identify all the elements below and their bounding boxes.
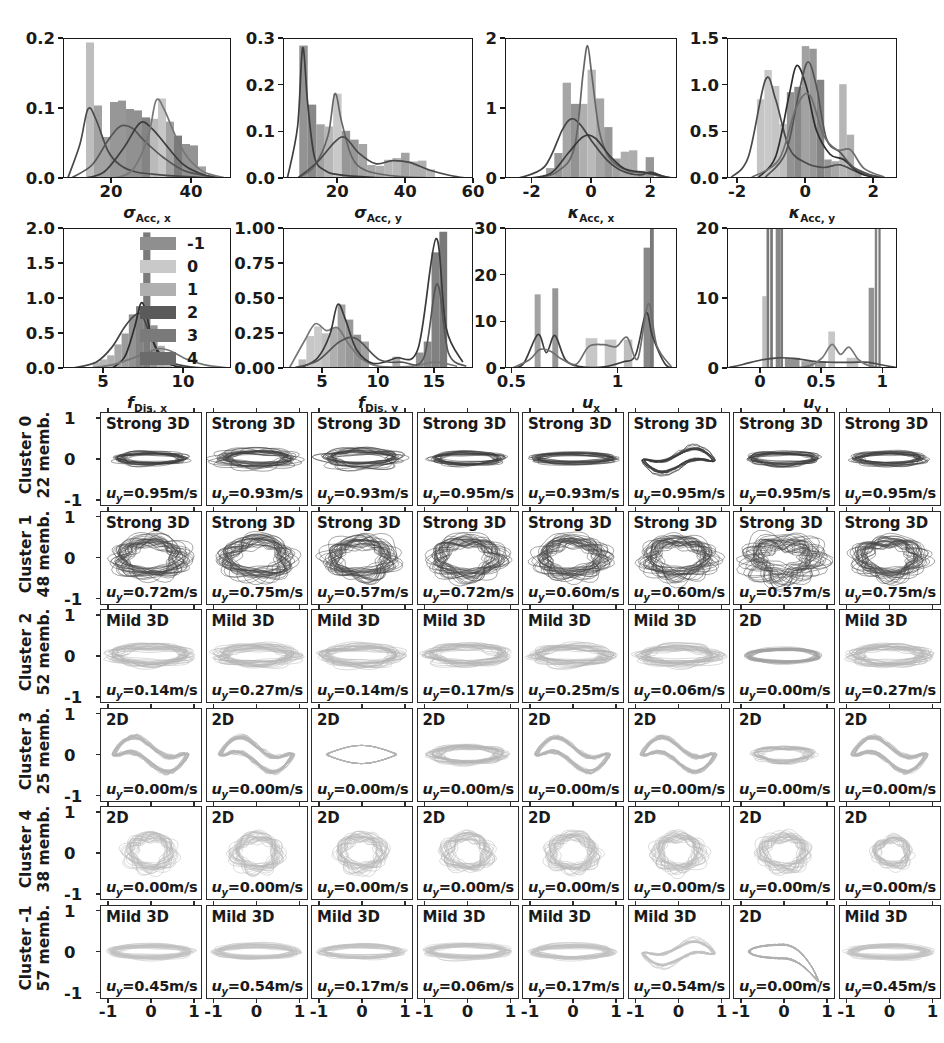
trajectory-cell[interactable]: 2Duy=0.00m/s <box>311 806 413 900</box>
grid-top-tickmark-2-3-1 <box>467 605 469 609</box>
trajectory-cell[interactable]: Strong 3Duy=0.95m/s <box>417 412 519 506</box>
trajectory-cell[interactable]: Mild 3Duy=0.45m/s <box>100 905 202 999</box>
cluster-row-members: 48 memb. <box>36 507 54 601</box>
trajectory-cell[interactable]: Mild 3Duy=0.27m/s <box>839 609 941 703</box>
flow-type-tag: Strong 3D <box>317 514 400 532</box>
grid-top-tickmark-3-4-2 <box>615 704 617 708</box>
grid-top-tickmark-1-0-2 <box>193 507 195 511</box>
flow-type-tag: 2D <box>528 809 551 827</box>
grid-top-tickmark-0-0-1 <box>150 408 152 412</box>
trajectory-cell[interactable]: 2Duy=0.00m/s <box>628 708 730 802</box>
legend-entry-4: 4 <box>140 347 205 370</box>
flow-type-tag: 2D <box>634 809 657 827</box>
trajectory-cell[interactable]: Strong 3Duy=0.75m/s <box>206 511 308 605</box>
grid-xtickmark-0-2 <box>193 999 195 1003</box>
grid-top-tickmark-3-3-0 <box>424 704 426 708</box>
trajectory-cell[interactable]: Mild 3Duy=0.06m/s <box>628 609 730 703</box>
legend-entry-3: 3 <box>140 324 205 347</box>
trajectory-cell[interactable]: Strong 3Duy=0.93m/s <box>311 412 413 506</box>
trajectory-cell[interactable]: Mild 3Duy=0.06m/s <box>417 905 519 999</box>
grid-xtickmark-2-0 <box>318 999 320 1003</box>
trajectory-cell[interactable]: Mild 3Duy=0.45m/s <box>839 905 941 999</box>
uy-value-label: uy=0.95m/s <box>106 484 197 504</box>
flow-type-tag: Mild 3D <box>634 612 697 630</box>
trajectory-cell[interactable]: Mild 3Duy=0.14m/s <box>311 609 413 703</box>
grid-xtickmark-1-1 <box>256 999 258 1003</box>
flow-type-tag: 2D <box>317 809 340 827</box>
grid-top-tickmark-3-7-1 <box>889 704 891 708</box>
trajectory-cell[interactable]: 2Duy=0.00m/s <box>839 806 941 900</box>
grid-top-tickmark-5-7-2 <box>932 901 934 905</box>
trajectory-cell[interactable]: 2Duy=0.00m/s <box>628 806 730 900</box>
trajectory-cell[interactable]: 2Duy=0.00m/s <box>839 708 941 802</box>
grid-top-tickmark-0-6-0 <box>740 408 742 412</box>
grid-top-tickmark-5-3-1 <box>467 901 469 905</box>
trajectory-cell[interactable]: 2Duy=0.00m/s <box>733 905 835 999</box>
cluster-legend: -101234 <box>140 232 205 370</box>
trajectory-cell[interactable]: Mild 3Duy=0.17m/s <box>311 905 413 999</box>
grid-top-tickmark-5-0-2 <box>193 901 195 905</box>
trajectory-cell[interactable]: Mild 3Duy=0.14m/s <box>100 609 202 703</box>
grid-top-tickmark-2-1-2 <box>299 605 301 609</box>
trajectory-cell[interactable]: Strong 3Duy=0.57m/s <box>311 511 413 605</box>
trajectory-cell[interactable]: Strong 3Duy=0.95m/s <box>628 412 730 506</box>
grid-top-tickmark-3-6-1 <box>783 704 785 708</box>
trajectory-cell[interactable]: Mild 3Duy=0.54m/s <box>206 905 308 999</box>
trajectory-cell[interactable]: Mild 3Duy=0.17m/s <box>417 609 519 703</box>
trajectory-cell[interactable]: Mild 3Duy=0.25m/s <box>522 609 624 703</box>
trajectory-cell[interactable]: Mild 3Duy=0.27m/s <box>206 609 308 703</box>
grid-top-tickmark-2-3-0 <box>424 605 426 609</box>
trajectory-cell[interactable]: Strong 3Duy=0.95m/s <box>100 412 202 506</box>
trajectory-cell[interactable]: Strong 3Duy=0.93m/s <box>206 412 308 506</box>
grid-top-tickmark-2-2-2 <box>404 605 406 609</box>
xtick-u_y-0: 0 <box>754 372 765 391</box>
trajectory-cell[interactable]: 2Duy=0.00m/s <box>522 708 624 802</box>
grid-top-tickmark-4-2-0 <box>318 802 320 806</box>
grid-top-tickmark-4-5-1 <box>678 802 680 806</box>
trajectory-cell[interactable]: Strong 3Duy=0.93m/s <box>522 412 624 506</box>
trajectory-cell[interactable]: 2Duy=0.00m/s <box>100 806 202 900</box>
grid-top-tickmark-4-2-1 <box>361 802 363 806</box>
uy-value-label: uy=0.00m/s <box>845 878 936 898</box>
xtickmark-u_y-1 <box>820 368 822 373</box>
trajectory-cell[interactable]: Mild 3Duy=0.17m/s <box>522 905 624 999</box>
trajectory-cell[interactable]: 2Duy=0.00m/s <box>522 806 624 900</box>
flow-type-tag: 2D <box>423 711 446 729</box>
trajectory-cell[interactable]: Strong 3Duy=0.95m/s <box>839 412 941 506</box>
trajectory-cell[interactable]: 2Duy=0.00m/s <box>311 708 413 802</box>
trajectory-cell[interactable]: Strong 3Duy=0.57m/s <box>733 511 835 605</box>
flow-type-tag: Mild 3D <box>528 908 591 926</box>
trajectory-cell[interactable]: 2Duy=0.00m/s <box>733 806 835 900</box>
trajectory-cell[interactable]: 2Duy=0.00m/s <box>417 806 519 900</box>
grid-top-tickmark-1-6-2 <box>826 507 828 511</box>
grid-ytick-5-1: 0 <box>64 942 94 961</box>
grid-xtick-4-0: -1 <box>521 1002 539 1021</box>
trajectory-cell[interactable]: Strong 3Duy=0.60m/s <box>628 511 730 605</box>
grid-top-tickmark-3-0-1 <box>150 704 152 708</box>
trajectory-cell[interactable]: Strong 3Duy=0.72m/s <box>100 511 202 605</box>
grid-top-tickmark-3-7-2 <box>932 704 934 708</box>
trajectory-cell[interactable]: 2Duy=0.00m/s <box>206 708 308 802</box>
trajectory-cell[interactable]: 2Duy=0.00m/s <box>206 806 308 900</box>
grid-top-tickmark-2-0-2 <box>193 605 195 609</box>
grid-ytick-3-0: 1 <box>64 704 94 723</box>
trajectory-cell[interactable]: Strong 3Duy=0.72m/s <box>417 511 519 605</box>
trajectory-cell[interactable]: 2Duy=0.00m/s <box>733 708 835 802</box>
flow-type-tag: Mild 3D <box>423 908 486 926</box>
grid-top-tickmark-0-7-1 <box>889 408 891 412</box>
grid-top-tickmark-5-5-1 <box>678 901 680 905</box>
trajectory-cell[interactable]: 2Duy=0.00m/s <box>417 708 519 802</box>
trajectory-cell[interactable]: Strong 3Duy=0.75m/s <box>839 511 941 605</box>
trajectory-cell[interactable]: 2Duy=0.00m/s <box>100 708 202 802</box>
uy-value-label: uy=0.27m/s <box>212 681 303 701</box>
cluster-row-name: Cluster 2 <box>17 613 35 692</box>
trajectory-cell[interactable]: Strong 3Duy=0.60m/s <box>522 511 624 605</box>
trajectory-cell[interactable]: Strong 3Duy=0.95m/s <box>733 412 835 506</box>
trajectory-cell[interactable]: Mild 3Duy=0.54m/s <box>628 905 730 999</box>
trajectory-cell[interactable]: 2Duy=0.00m/s <box>733 609 835 703</box>
uy-value-label: uy=0.54m/s <box>634 977 725 997</box>
flow-type-tag: Strong 3D <box>106 514 189 532</box>
grid-xtickmark-6-0 <box>740 999 742 1003</box>
grid-xtick-3-0: -1 <box>415 1002 433 1021</box>
grid-top-tickmark-0-5-0 <box>635 408 637 412</box>
